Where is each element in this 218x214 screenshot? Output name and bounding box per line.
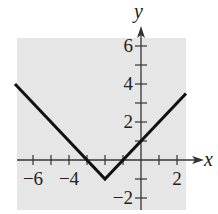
y-tick-label: 4 (124, 73, 134, 94)
y-tick-label: 2 (124, 111, 134, 132)
y-tick-label: 6 (124, 35, 134, 56)
x-tick-label: −6 (23, 168, 43, 189)
x-axis-label: x (203, 148, 213, 170)
y-tick-label: −2 (113, 187, 133, 208)
x-tick-label: −4 (59, 168, 80, 189)
chart: −6−42642−2 x y (0, 0, 218, 214)
x-tick-label: 2 (172, 168, 182, 189)
y-axis-label: y (132, 0, 143, 23)
